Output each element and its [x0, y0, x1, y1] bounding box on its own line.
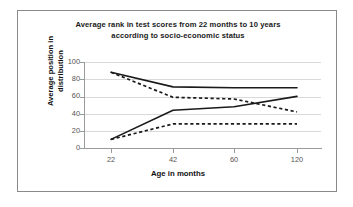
y-axis-spine — [84, 62, 85, 149]
y-tick-label-40: 40 — [58, 110, 80, 118]
plot-area — [84, 62, 321, 148]
y-tick-label-80: 80 — [58, 75, 80, 83]
chart-title: Average rank in test scores from 22 mont… — [18, 19, 338, 41]
y-tick-label-0: 0 — [58, 144, 80, 152]
y-tick-label-60: 60 — [58, 92, 80, 100]
x-tick-mark-22 — [111, 149, 112, 153]
x-tick-label-22: 22 — [96, 156, 126, 164]
y-tick-label-100: 100 — [58, 58, 80, 66]
x-tick-mark-42 — [173, 149, 174, 153]
x-tick-mark-60 — [234, 149, 235, 153]
x-axis-label: Age in months — [18, 169, 338, 178]
y-tick-label-20: 20 — [58, 127, 80, 135]
y-axis-label-line-1: Average position in — [46, 16, 56, 126]
series-line-high-score-high-ses — [111, 72, 297, 88]
series-line-low-score-high-ses — [111, 96, 297, 139]
x-axis-spine — [84, 148, 322, 149]
chart-title-line-1: Average rank in test scores from 22 mont… — [18, 19, 338, 30]
chart-figure: Average rank in test scores from 22 mont… — [17, 10, 337, 192]
x-tick-label-120: 120 — [282, 156, 312, 164]
x-tick-label-42: 42 — [158, 156, 188, 164]
x-tick-label-60: 60 — [219, 156, 249, 164]
series-lines — [84, 62, 321, 148]
chart-title-line-2: according to socio-economic status — [18, 30, 338, 41]
x-tick-mark-120 — [297, 149, 298, 153]
